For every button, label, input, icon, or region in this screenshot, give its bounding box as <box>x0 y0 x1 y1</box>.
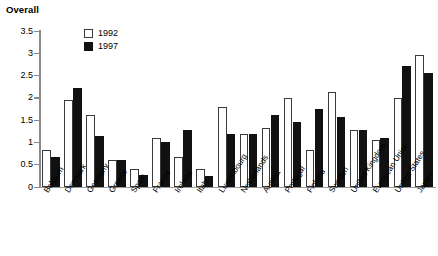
bar-1997 <box>51 157 60 187</box>
bar-chart: Overall 00.511.522.533.5 BelgiumDenmarkG… <box>0 0 438 256</box>
bar-1992 <box>196 169 205 187</box>
bar-1992 <box>64 100 73 187</box>
bar-1992 <box>328 92 337 187</box>
bar-1997 <box>117 160 126 187</box>
bar-group <box>152 31 174 187</box>
bar-1997 <box>359 130 368 187</box>
bar-group <box>108 31 130 187</box>
bar-1992 <box>174 157 183 187</box>
bar-group <box>42 31 64 187</box>
bar-1997 <box>249 134 258 187</box>
bar-1992 <box>130 169 139 187</box>
legend-swatch-1997-icon <box>84 42 93 51</box>
bar-1992 <box>218 107 227 187</box>
bar-group <box>196 31 218 187</box>
y-axis-label-2-5: 2.5 <box>3 71 33 80</box>
bar-1992 <box>415 55 424 187</box>
bar-group <box>218 31 240 187</box>
legend-swatch-1992-icon <box>84 29 93 38</box>
bar-group <box>415 31 437 187</box>
bar-1997 <box>161 142 170 187</box>
bar-1997 <box>402 66 411 187</box>
bar-group <box>350 31 372 187</box>
bar-1997 <box>271 115 280 187</box>
bar-1992 <box>152 138 161 187</box>
bar-group <box>328 31 350 187</box>
bar-1997 <box>293 122 302 187</box>
bar-group <box>130 31 152 187</box>
bar-group <box>64 31 86 187</box>
bar-1992 <box>350 130 359 187</box>
bar-group <box>240 31 262 187</box>
bar-1997 <box>183 130 192 187</box>
bar-group <box>284 31 306 187</box>
bar-1992 <box>284 98 293 187</box>
bar-1997 <box>380 138 389 187</box>
bar-1992 <box>262 128 271 187</box>
bar-1992 <box>42 150 51 187</box>
bar-group <box>306 31 328 187</box>
bar-group <box>394 31 416 187</box>
bar-1997 <box>227 134 236 187</box>
chart-legend: 1992 1997 <box>84 27 118 53</box>
legend-label-1997: 1997 <box>98 42 118 51</box>
y-axis-tick-labels: 00.511.522.533.5 <box>0 0 33 256</box>
bar-group <box>372 31 394 187</box>
bar-1997 <box>315 109 324 187</box>
bar-1992 <box>372 140 381 187</box>
legend-label-1992: 1992 <box>98 29 118 38</box>
y-axis-label-2: 2 <box>3 93 33 102</box>
y-axis-label-1: 1 <box>3 138 33 147</box>
bar-1997 <box>424 73 433 187</box>
plot-area <box>40 31 436 187</box>
bar-1997 <box>139 175 148 187</box>
y-axis-label-3: 3 <box>3 49 33 58</box>
bar-1992 <box>394 98 403 187</box>
bar-1997 <box>337 117 346 187</box>
bar-1992 <box>86 115 95 187</box>
bar-1992 <box>108 160 117 187</box>
y-axis-label-1-5: 1.5 <box>3 116 33 125</box>
x-axis-line <box>39 187 436 188</box>
y-axis-label-3-5: 3.5 <box>3 27 33 36</box>
bar-1997 <box>73 88 82 187</box>
bar-1992 <box>240 134 249 187</box>
y-axis-label-0-5: 0.5 <box>3 160 33 169</box>
bar-1992 <box>306 150 315 187</box>
bar-group <box>174 31 196 187</box>
bar-1997 <box>95 136 104 187</box>
legend-item-1992: 1992 <box>84 27 118 40</box>
bar-1997 <box>205 176 214 187</box>
bar-group <box>86 31 108 187</box>
legend-item-1997: 1997 <box>84 40 118 53</box>
bar-group <box>262 31 284 187</box>
y-axis-label-0: 0 <box>3 183 33 192</box>
